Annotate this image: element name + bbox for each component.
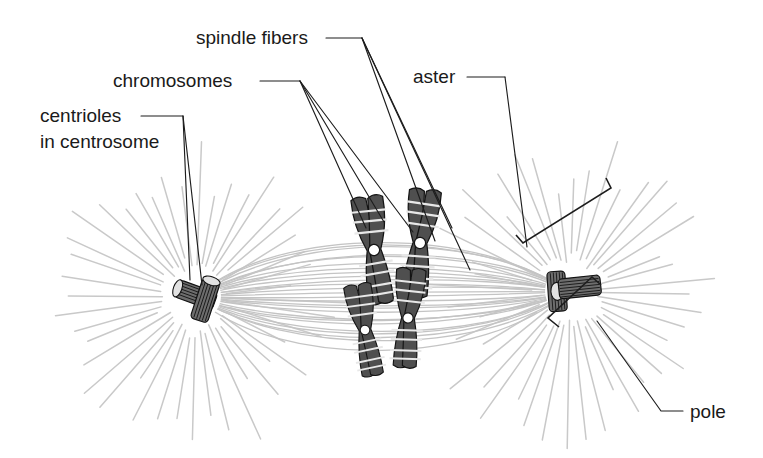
label-centrioles-line-2: in centrosome	[40, 131, 159, 152]
aster-ray	[585, 327, 613, 390]
aster-ray	[571, 179, 574, 253]
aster-ray	[598, 293, 689, 295]
centromere	[414, 237, 426, 249]
label-aster: aster	[413, 66, 456, 87]
label-centrioles-line-1: centrioles	[40, 105, 121, 126]
aster-ray	[72, 211, 163, 274]
label-chromosomes: chromosomes	[113, 70, 232, 91]
aster-ray	[200, 331, 211, 415]
aster-ray	[577, 321, 605, 430]
leader-aster	[467, 77, 611, 247]
label-spindle-fibers: spindle fibers	[196, 27, 308, 48]
aster-ray	[214, 195, 249, 263]
aster-ray	[598, 296, 701, 312]
aster-ray	[62, 276, 161, 291]
aster-ray	[67, 238, 163, 282]
aster-ray	[84, 317, 172, 393]
label-pole: pole	[690, 401, 726, 422]
aster-ray	[133, 324, 182, 420]
centromere	[403, 313, 414, 324]
aster-ray	[202, 196, 214, 263]
aster-ray	[559, 194, 567, 262]
leader-chromosomes	[260, 81, 413, 232]
aster-ray	[484, 315, 549, 387]
aster-ray	[594, 181, 667, 265]
aster-ray	[56, 302, 162, 316]
mitosis-diagram: spindle fibers chromosomes centrioles in…	[0, 0, 763, 458]
aster-ray	[192, 338, 195, 440]
aster-ray	[574, 326, 586, 439]
aster-ray	[75, 307, 161, 331]
aster-ray	[68, 296, 162, 297]
aster-ray	[604, 217, 694, 272]
aster-ray	[567, 320, 569, 448]
aster-ray	[580, 142, 617, 260]
aster-ray	[100, 323, 174, 408]
aster-ray	[205, 334, 229, 430]
aster-ray	[600, 279, 715, 290]
diagram-canvas: spindle fibers chromosomes centrioles in…	[0, 0, 763, 458]
